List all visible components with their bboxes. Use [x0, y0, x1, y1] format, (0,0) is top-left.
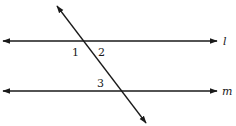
angle-1-label: 1 — [72, 46, 79, 59]
angle-3-label: 3 — [97, 77, 104, 90]
parallel-lines-diagram: 1 2 3 l m — [0, 0, 236, 126]
line-m-label: m — [222, 85, 232, 98]
transversal-line — [57, 6, 146, 123]
line-l-label: l — [223, 35, 227, 48]
angle-2-label: 2 — [98, 46, 105, 59]
